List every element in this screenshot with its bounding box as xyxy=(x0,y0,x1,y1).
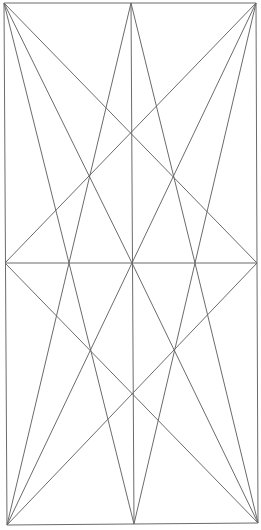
geometric-line-diagram xyxy=(0,0,261,530)
